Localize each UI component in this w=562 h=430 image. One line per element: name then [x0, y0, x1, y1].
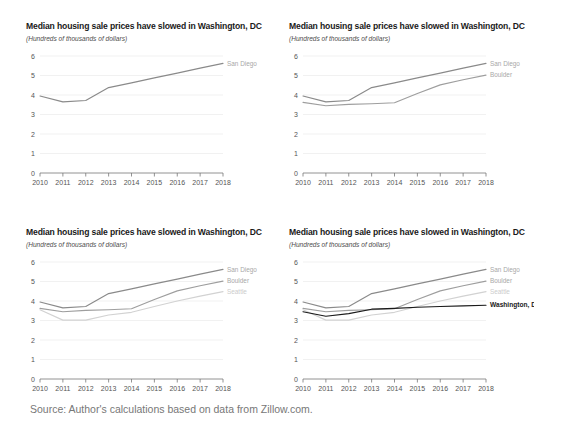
x-axis-tick-label: 2010 [32, 385, 48, 392]
series-label-seattle: Seattle [490, 288, 510, 295]
x-axis-tick-label: 2013 [364, 385, 380, 392]
y-axis-tick-label: 2 [31, 337, 35, 344]
x-axis-tick-label: 2018 [215, 385, 231, 392]
x-axis-tick-label: 2010 [295, 179, 311, 186]
line-chart-plot: 0123456201020112012201320142015201620172… [26, 50, 271, 195]
x-axis-tick-label: 2010 [32, 179, 48, 186]
x-axis-tick-label: 2014 [387, 179, 403, 186]
x-axis-tick-label: 2010 [295, 385, 311, 392]
series-label-san-diego: San Diego [490, 60, 520, 68]
x-axis-tick-label: 2016 [432, 179, 448, 186]
chart-panel-4: Median housing sale prices have slowed i… [281, 215, 562, 395]
x-axis-tick-label: 2016 [432, 385, 448, 392]
series-line-washington-dc [303, 305, 486, 316]
x-axis-tick-label: 2011 [55, 385, 70, 392]
y-axis-tick-label: 4 [31, 92, 35, 99]
series-line-seattle [40, 292, 223, 320]
x-axis-tick-label: 2014 [387, 385, 403, 392]
x-axis-tick-label: 2015 [410, 385, 426, 392]
x-axis-tick-label: 2016 [169, 385, 185, 392]
y-axis-tick-label: 2 [31, 131, 35, 138]
y-axis-tick-label: 6 [294, 259, 298, 266]
y-axis-tick-label: 1 [294, 150, 298, 157]
x-axis-tick-label: 2017 [192, 179, 208, 186]
x-axis-tick-label: 2017 [455, 385, 471, 392]
series-label-boulder: Boulder [490, 277, 513, 284]
y-axis-tick-label: 1 [31, 356, 35, 363]
y-axis-tick-label: 0 [294, 170, 298, 177]
y-axis-tick-label: 3 [294, 317, 298, 324]
y-axis-tick-label: 6 [31, 53, 35, 60]
x-axis-tick-label: 2012 [78, 179, 94, 186]
x-axis-tick-label: 2013 [364, 179, 380, 186]
x-axis-tick-label: 2014 [124, 179, 140, 186]
x-axis-tick-label: 2011 [318, 385, 333, 392]
y-axis-tick-label: 5 [31, 278, 35, 285]
x-axis-tick-label: 2017 [192, 385, 208, 392]
y-axis-tick-label: 4 [294, 298, 298, 305]
series-label-san-diego: San Diego [490, 266, 520, 274]
series-label-san-diego: San Diego [227, 60, 257, 68]
chart-panel-1: Median housing sale prices have slowed i… [0, 0, 281, 215]
series-label-boulder: Boulder [227, 277, 250, 284]
x-axis-tick-label: 2015 [410, 179, 426, 186]
y-axis-tick-label: 1 [31, 150, 35, 157]
x-axis-tick-label: 2016 [169, 179, 185, 186]
x-axis-tick-label: 2014 [124, 385, 140, 392]
series-label-san-diego: San Diego [227, 266, 257, 274]
y-axis-tick-label: 3 [31, 111, 35, 118]
y-axis-tick-label: 6 [294, 53, 298, 60]
x-axis-tick-label: 2018 [215, 179, 231, 186]
chart-title: Median housing sale prices have slowed i… [26, 21, 262, 31]
x-axis-tick-label: 2012 [341, 179, 357, 186]
x-axis-tick-label: 2011 [55, 179, 70, 186]
y-axis-tick-label: 5 [294, 72, 298, 79]
chart-grid: Median housing sale prices have slowed i… [0, 0, 562, 395]
y-axis-tick-label: 4 [294, 92, 298, 99]
x-axis-tick-label: 2018 [478, 179, 494, 186]
y-axis-tick-label: 5 [31, 72, 35, 79]
y-axis-tick-label: 0 [31, 170, 35, 177]
series-line-san-diego [40, 269, 223, 307]
chart-subtitle: (Hundreds of thousands of dollars) [26, 35, 127, 42]
chart-panel-3: Median housing sale prices have slowed i… [0, 215, 281, 395]
chart-subtitle: (Hundreds of thousands of dollars) [289, 241, 390, 248]
chart-title: Median housing sale prices have slowed i… [26, 227, 262, 237]
x-axis-tick-label: 2013 [101, 385, 117, 392]
chart-title: Median housing sale prices have slowed i… [289, 227, 525, 237]
chart-panel-2: Median housing sale prices have slowed i… [281, 0, 562, 215]
line-chart-plot: 0123456201020112012201320142015201620172… [26, 256, 271, 401]
x-axis-tick-label: 2011 [318, 179, 333, 186]
y-axis-tick-label: 3 [31, 317, 35, 324]
series-line-san-diego [303, 269, 486, 307]
y-axis-tick-label: 4 [31, 298, 35, 305]
line-chart-plot: 0123456201020112012201320142015201620172… [289, 256, 534, 401]
chart-title: Median housing sale prices have slowed i… [289, 21, 525, 31]
y-axis-tick-label: 3 [294, 111, 298, 118]
series-label-washington-dc: Washington, DC [490, 301, 534, 309]
x-axis-tick-label: 2017 [455, 179, 471, 186]
series-label-boulder: Boulder [490, 71, 513, 78]
x-axis-tick-label: 2012 [78, 385, 94, 392]
y-axis-tick-label: 5 [294, 278, 298, 285]
y-axis-tick-label: 0 [31, 376, 35, 383]
series-line-san-diego [303, 63, 486, 101]
chart-subtitle: (Hundreds of thousands of dollars) [26, 241, 127, 248]
line-chart-plot: 0123456201020112012201320142015201620172… [289, 50, 534, 195]
y-axis-tick-label: 6 [31, 259, 35, 266]
series-line-san-diego [40, 63, 223, 101]
series-label-seattle: Seattle [227, 288, 247, 295]
x-axis-tick-label: 2012 [341, 385, 357, 392]
y-axis-tick-label: 1 [294, 356, 298, 363]
x-axis-tick-label: 2015 [147, 179, 163, 186]
source-note: Source: Author's calculations based on d… [30, 403, 313, 415]
y-axis-tick-label: 0 [294, 376, 298, 383]
x-axis-tick-label: 2015 [147, 385, 163, 392]
y-axis-tick-label: 2 [294, 131, 298, 138]
chart-subtitle: (Hundreds of thousands of dollars) [289, 35, 390, 42]
y-axis-tick-label: 2 [294, 337, 298, 344]
x-axis-tick-label: 2013 [101, 179, 117, 186]
x-axis-tick-label: 2018 [478, 385, 494, 392]
